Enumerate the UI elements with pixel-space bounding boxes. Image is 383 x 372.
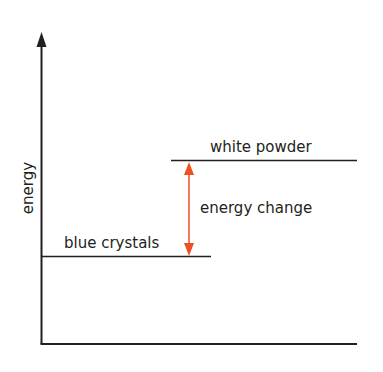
level-label-blue-crystals: blue crystals: [64, 234, 160, 252]
energy-change-arrow: [184, 162, 194, 256]
y-axis: [37, 32, 47, 344]
y-axis-arrowhead-icon: [37, 32, 47, 47]
arrow-up-icon: [184, 162, 194, 175]
arrow-down-icon: [184, 243, 194, 256]
energy-change-label: energy change: [200, 199, 312, 217]
energy-level-diagram: energy blue crystals white powder energy…: [0, 0, 383, 372]
y-axis-label: energy: [19, 162, 37, 214]
level-label-white-powder: white powder: [210, 138, 313, 156]
